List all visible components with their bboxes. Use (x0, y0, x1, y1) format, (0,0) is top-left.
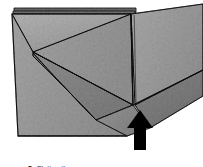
caption-instruction-text: Flatten the open square (34, 164, 114, 167)
caption-step-number: 5. (0, 164, 34, 167)
origami-illustration (0, 0, 203, 150)
origami-step-figure: 5.Flatten the open square (0, 0, 203, 167)
figure-caption: 5.Flatten the open square (0, 157, 203, 167)
